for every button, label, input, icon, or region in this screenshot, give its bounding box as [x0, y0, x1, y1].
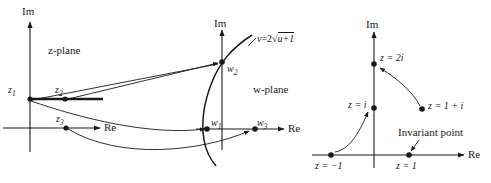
equation-leader-line	[248, 38, 256, 46]
label-z1-sub: 1	[12, 89, 16, 98]
point-z-eq-i	[371, 105, 377, 111]
label-w2-sub: 2	[234, 68, 238, 77]
figure-canvas: Im Re z-plane z1 z2 z3 Im Re w-plane v=2…	[0, 0, 491, 183]
label-z2-sub: 2	[59, 89, 63, 98]
w-plane-label: w-plane	[253, 84, 288, 95]
label-w1-base: w	[211, 117, 218, 128]
label-z-eq-1: z = 1	[396, 161, 417, 171]
point-z-eq-2i	[371, 61, 377, 67]
radical-icon: √	[272, 33, 278, 44]
invariant-point-label: Invariant point	[398, 127, 463, 138]
z-plane-re-axis-label: Re	[104, 122, 116, 133]
map-arrow-1plusi-to-2i	[380, 68, 420, 106]
point-w2	[219, 59, 225, 65]
label-w2: w2	[227, 64, 237, 77]
label-w3-base: w	[257, 117, 264, 128]
label-w2-base: w	[227, 63, 234, 74]
label-z2: z2	[55, 85, 63, 98]
label-z-eq-minus-1: z = −1	[315, 161, 342, 171]
w-plane-re-axis-label: Re	[288, 123, 300, 134]
w-plane-parabola-curve	[203, 35, 252, 166]
w-plane-im-axis-label: Im	[214, 18, 226, 29]
label-w3: w3	[257, 118, 267, 131]
point-w1	[204, 126, 210, 132]
point-z-eq-1-plus-i	[419, 106, 425, 112]
label-w1-sub: 1	[218, 122, 222, 131]
w-plane-curve-equation: v=2√u+1	[257, 34, 294, 44]
z-plane-label: z-plane	[48, 45, 80, 56]
z-plane-im-axis-label: Im	[22, 6, 34, 17]
equation-radicand: u+1	[278, 32, 295, 44]
label-w3-sub: 3	[264, 122, 268, 131]
z-plane-axes	[3, 22, 100, 152]
label-z-eq-1-plus-i: z = 1 + i	[428, 101, 463, 111]
label-z-eq-i: z = i	[348, 100, 366, 110]
diagram-vector-layer	[0, 0, 491, 183]
label-z3-sub: 3	[60, 118, 64, 127]
map-arrow-minus1-to-i	[335, 112, 368, 152]
point-z-eq-1	[406, 152, 412, 158]
label-w1: w1	[211, 118, 221, 131]
label-z3: z3	[56, 114, 64, 127]
label-z1: z1	[8, 85, 16, 98]
invariant-point-leader	[411, 140, 419, 151]
invariant-plane-im-axis-label: Im	[366, 19, 378, 30]
invariant-plane-re-axis-label: Re	[468, 149, 480, 160]
point-z2	[62, 96, 67, 101]
point-z3	[63, 125, 68, 130]
label-z-eq-2i: z = 2i	[380, 53, 403, 63]
point-z-eq-minus-1	[328, 152, 334, 158]
